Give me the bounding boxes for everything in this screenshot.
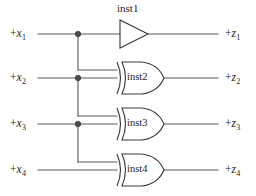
gate-inst1[interactable] <box>120 20 218 48</box>
gate-label-inst4: inst4 <box>127 164 147 175</box>
output-index-z4: 4 <box>236 169 240 178</box>
output-index-z2: 2 <box>236 77 240 86</box>
input-label-x1: +x1 <box>10 28 26 40</box>
output-label-z3: +z3 <box>225 118 240 130</box>
net-x2 <box>38 78 117 116</box>
input-index-x4: 4 <box>22 169 26 178</box>
gate-label-inst3: inst3 <box>127 118 147 129</box>
input-label-x4: +x4 <box>10 164 26 176</box>
gate-label-inst2: inst2 <box>127 72 147 83</box>
output-label-z2: +z2 <box>225 72 240 84</box>
net-x3 <box>38 124 117 162</box>
input-var-x1: x <box>17 27 22 39</box>
input-index-x1: 1 <box>22 33 26 42</box>
junction-tap-x3 <box>75 121 81 127</box>
output-index-z3: 3 <box>236 123 240 132</box>
circuit-diagram: +x1 +x2 +x3 +x4 +z1 +z2 +z3 +z4 inst1 in… <box>0 0 256 196</box>
input-index-x3: 3 <box>22 123 26 132</box>
output-label-z1: +z1 <box>225 28 240 40</box>
input-var-x3: x <box>17 117 22 129</box>
junction-tap-x2 <box>75 75 81 81</box>
input-var-x2: x <box>17 71 22 83</box>
junction-tap-x1 <box>75 31 81 37</box>
output-index-z1: 1 <box>236 33 240 42</box>
gate-label-inst1: inst1 <box>117 3 138 14</box>
input-var-x4: x <box>17 163 22 175</box>
buffer-triangle-inst1 <box>120 20 148 48</box>
input-label-x3: +x3 <box>10 118 26 130</box>
input-index-x2: 2 <box>22 77 26 86</box>
input-label-x2: +x2 <box>10 72 26 84</box>
net-x1 <box>38 34 120 70</box>
output-label-z4: +z4 <box>225 164 240 176</box>
